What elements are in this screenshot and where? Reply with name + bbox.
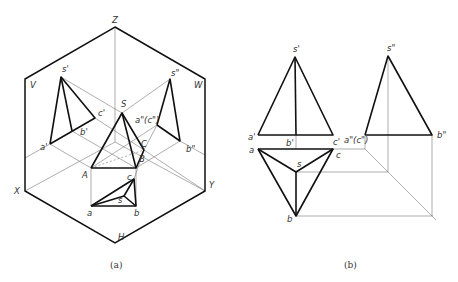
label-c: c — [127, 172, 132, 182]
projector-line — [144, 150, 205, 191]
v-projection-triangle — [50, 77, 95, 144]
label-ac-double-prime: a"(c") — [135, 115, 159, 125]
label-B: B — [139, 154, 145, 164]
label-a-prime: a' — [40, 142, 48, 152]
label-c: c — [336, 150, 341, 160]
label-b: b — [134, 208, 139, 218]
projector-line — [50, 144, 91, 168]
figure-a-isometric: Z V W X Y H s' a' b' c' s" a"(c") b" S A… — [13, 15, 215, 270]
projector-line — [122, 79, 170, 113]
label-c-prime: c' — [333, 137, 340, 147]
label-b-double-prime: b" — [437, 130, 446, 140]
label-a-prime: a' — [248, 132, 256, 142]
label-c-prime: c' — [98, 108, 105, 118]
side-view-triangle — [365, 56, 432, 135]
label-s-prime: s' — [62, 64, 69, 74]
label-b-prime: b' — [286, 138, 294, 148]
projector-line — [91, 125, 157, 168]
label-h-plane: H — [118, 232, 125, 242]
label-b: b — [287, 214, 292, 224]
label-S: S — [121, 99, 127, 109]
label-b-double-prime: b" — [186, 144, 195, 154]
projector-line — [61, 77, 122, 113]
label-a: a — [87, 208, 92, 218]
label-s-double-prime: s" — [171, 68, 179, 78]
label-s: s — [297, 159, 302, 169]
caption-b: (b) — [344, 260, 357, 270]
v-projection-edge-sb — [61, 77, 72, 131]
label-y-axis: Y — [209, 180, 215, 190]
miter-line-45deg — [365, 149, 436, 220]
label-s-double-prime: s" — [387, 43, 395, 53]
label-a: a — [249, 145, 254, 155]
label-x-axis: X — [13, 186, 20, 196]
projection-figure: Z V W X Y H s' a' b' c' s" a"(c") b" S A… — [0, 0, 458, 282]
label-z-axis: Z — [111, 15, 118, 25]
label-C: C — [141, 139, 147, 149]
w-projection-triangle — [157, 79, 180, 141]
label-s: s — [118, 195, 123, 205]
h-projection-triangle — [91, 179, 136, 206]
front-view-edge-sb — [295, 57, 296, 135]
pyramid-front-face — [91, 113, 136, 168]
caption-a: (a) — [110, 260, 122, 270]
label-b-prime: b' — [80, 127, 88, 137]
label-v-plane: V — [30, 80, 37, 90]
label-ac-double-prime: a"(c") — [344, 135, 368, 145]
label-s-prime: s' — [293, 44, 300, 54]
figure-b-orthographic: s' a' b' c' s" a"(c") b" a c s b (b) — [248, 43, 446, 270]
label-w-plane: W — [194, 80, 203, 90]
label-A: A — [81, 170, 88, 180]
